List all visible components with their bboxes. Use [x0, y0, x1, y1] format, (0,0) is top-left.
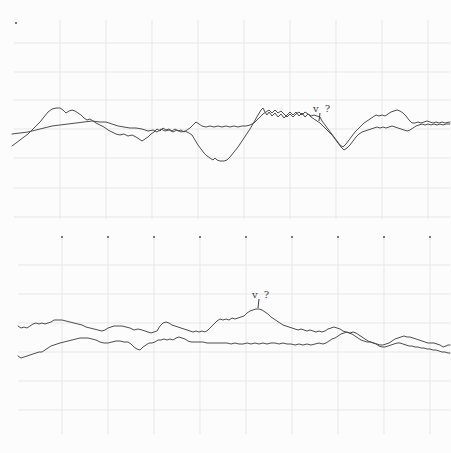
axis-tick-dot — [429, 236, 431, 238]
axis-tick-dot — [15, 22, 17, 24]
axis-tick-dot — [245, 236, 247, 238]
annotation-tick — [258, 299, 259, 308]
top-chart-annotation: v ? — [313, 103, 332, 114]
axis-tick-dot — [199, 236, 201, 238]
axis-tick-dot — [291, 236, 293, 238]
axis-tick-dot — [107, 236, 109, 238]
annotation-tick — [319, 113, 320, 121]
dual-trace-figure: v ? v ? — [0, 0, 451, 453]
axis-tick-dot — [383, 236, 385, 238]
charts-canvas — [0, 0, 451, 453]
bottom-chart — [18, 236, 450, 434]
series-trace-1 — [12, 108, 450, 161]
series-trace-1 — [18, 309, 450, 353]
bottom-chart-annotation: v ? — [252, 289, 271, 300]
axis-tick-dot — [337, 236, 339, 238]
series-trace-2 — [18, 332, 450, 358]
top-chart — [12, 20, 450, 219]
axis-tick-dot — [61, 236, 63, 238]
axis-tick-dot — [153, 236, 155, 238]
